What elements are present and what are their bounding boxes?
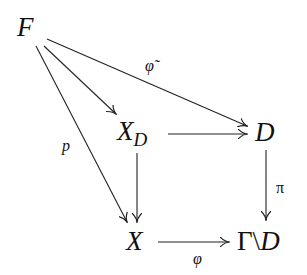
node-GammaD-backslash: \ [253, 226, 261, 256]
node-D: D [255, 119, 275, 146]
node-GammaD: Γ\D [237, 228, 280, 255]
label-phi: φ [193, 251, 202, 267]
node-D-text: D [255, 117, 275, 147]
node-GammaD-gamma: Γ [237, 226, 253, 256]
arrow-F-to-X [36, 46, 127, 222]
node-X: X [126, 228, 143, 255]
label-phi-tilde: φ̃ [145, 58, 154, 74]
node-GammaD-D: D [260, 226, 280, 256]
node-F-text: F [17, 12, 34, 42]
arrow-F-to-XD [44, 46, 116, 114]
node-F: F [17, 14, 34, 41]
node-X-text: X [126, 226, 143, 256]
label-p: p [62, 138, 70, 154]
node-XD: XD [117, 118, 147, 149]
node-XD-base: X [117, 116, 134, 146]
node-XD-subscript: D [134, 129, 148, 150]
label-pi: π [276, 180, 284, 196]
arrow-F-to-D [47, 39, 247, 126]
